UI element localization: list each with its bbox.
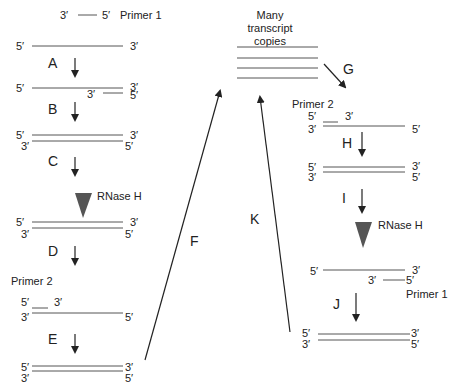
step-g-label: G — [343, 61, 354, 77]
transcripts-label-3: copies — [254, 35, 286, 47]
left-stage-2: 5′ 3′ 3′ 5′ — [16, 81, 138, 101]
left-stage-5: 5′ 3′ 3′ 5′ — [21, 296, 133, 323]
primer2-label-left: Primer 2 — [11, 275, 53, 287]
right-stage-2: 5′ 3′ 3′ 5′ — [308, 160, 420, 183]
end-label: 5′ — [411, 338, 419, 350]
end-label: 5′ — [21, 296, 29, 308]
primer1-right-end: 5′ — [102, 9, 110, 21]
end-label: 5′ — [16, 40, 24, 52]
arrow-k-icon — [260, 97, 290, 332]
arrow-f-icon — [145, 91, 220, 360]
end-label: 3′ — [345, 110, 353, 122]
left-stage-6: 5′ 3′ 3′ 5′ — [21, 361, 133, 384]
primer1-label: Primer 1 — [120, 9, 162, 21]
end-label: 3′ — [308, 171, 316, 183]
end-label: 3′ — [87, 88, 95, 100]
end-label: 5′ — [125, 372, 133, 384]
rnase-h-triangle-icon — [75, 193, 92, 218]
end-label: 3′ — [21, 311, 29, 323]
primer1-top: 3′ 5′ Primer 1 — [60, 9, 162, 21]
left-stage-3: 5′ 3′ 3′ 5′ — [16, 129, 138, 152]
step-j-label: J — [333, 296, 340, 312]
step-d-label: D — [48, 243, 58, 259]
primer2-label-right: Primer 2 — [292, 98, 334, 110]
end-label: 5′ — [125, 140, 133, 152]
transcript-copies: Many transcript copies — [237, 9, 318, 78]
end-label: 3′ — [21, 228, 29, 240]
end-label: 3′ — [130, 216, 138, 228]
step-h-label: H — [342, 135, 352, 151]
step-b-label: B — [48, 101, 57, 117]
right-stage-4: 5′ 3′ 3′ 5′ — [302, 327, 419, 350]
rnase-h-label-right: RNase H — [378, 219, 423, 231]
end-label: 5′ — [130, 89, 138, 101]
end-label: 5′ — [125, 311, 133, 323]
transcripts-label-2: transcript — [247, 22, 292, 34]
end-label: 3′ — [21, 140, 29, 152]
tma-cycle-diagram: 3′ 5′ Primer 1 5′ 3′ A 5′ 3′ 3′ 5′ B 5′ … — [0, 0, 457, 386]
step-c-label: C — [48, 153, 58, 169]
step-i-label: I — [342, 190, 346, 206]
end-label: 5′ — [308, 110, 316, 122]
end-label: 3′ — [308, 123, 316, 135]
left-stage-4: 5′ 3′ 3′ 5′ — [16, 216, 138, 240]
end-label: 3′ — [21, 372, 29, 384]
rnase-h-triangle-icon — [355, 222, 372, 248]
step-k-label: K — [250, 211, 260, 227]
left-stage-1: 5′ 3′ — [16, 40, 138, 52]
end-label: 3′ — [368, 274, 376, 286]
right-stage-3: 5′ 3′ 3′ 5′ — [310, 264, 420, 286]
step-e-label: E — [48, 331, 57, 347]
right-stage-1: 5′ 3′ 3′ 5′ — [308, 110, 420, 135]
primer1-left-end: 3′ — [60, 9, 68, 21]
end-label: 5′ — [412, 123, 420, 135]
end-label: 5′ — [310, 265, 318, 277]
transcripts-label-1: Many — [257, 9, 284, 21]
primer1-label-right: Primer 1 — [406, 288, 448, 300]
end-label: 5′ — [412, 171, 420, 183]
end-label: 5′ — [16, 82, 24, 94]
end-label: 3′ — [54, 296, 62, 308]
end-label: 5′ — [125, 228, 133, 240]
arrow-g-icon — [324, 64, 345, 87]
end-label: 3′ — [302, 338, 310, 350]
end-label: 3′ — [130, 40, 138, 52]
rnase-h-label-left: RNase H — [97, 190, 142, 202]
step-f-label: F — [190, 233, 199, 249]
step-a-label: A — [48, 55, 58, 71]
end-label: 5′ — [16, 216, 24, 228]
end-label: 5′ — [406, 274, 414, 286]
